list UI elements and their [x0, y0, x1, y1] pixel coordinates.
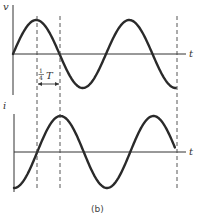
- v-t-axis-label: t: [189, 48, 194, 59]
- arrowhead-right-icon: [55, 82, 59, 86]
- v-axis-label: v: [3, 1, 9, 12]
- arrowhead-left-icon: [38, 82, 42, 86]
- quarter-numerator: 1: [39, 67, 43, 74]
- period-symbol: T: [46, 70, 54, 81]
- figure-caption: (b): [91, 204, 104, 214]
- phase-diagram: v t 1 4 T i t (b): [0, 0, 204, 223]
- i-axis-label: i: [3, 100, 6, 111]
- quarter-denominator: 4: [39, 74, 43, 81]
- i-t-axis-label: t: [189, 146, 194, 157]
